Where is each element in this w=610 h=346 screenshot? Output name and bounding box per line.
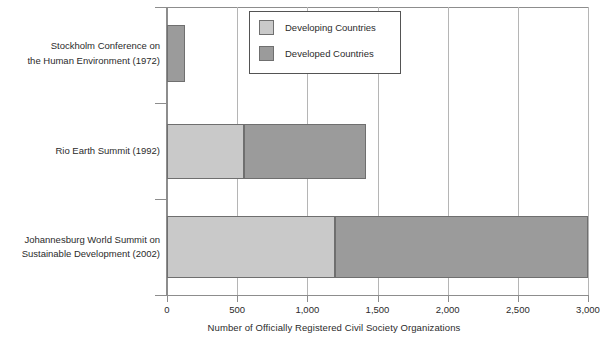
x-axis-line [155,295,589,296]
category-label: Rio Earth Summit (1992) [0,144,160,159]
x-axis-tick-label: 1,500 [366,304,390,315]
category-label: Johannesburg World Summit onSustainable … [0,233,160,262]
x-axis-tick [378,295,379,302]
x-axis-title-text: Number of Officially Registered Civil So… [208,322,461,333]
category-label-line: Sustainable Development (2002) [0,247,160,262]
bar-segment-developed [335,216,588,278]
x-axis-tick [167,295,168,302]
bar-segment-developed [244,124,366,179]
legend-swatch-developing-icon [259,20,274,35]
bar-segment-developing [167,216,335,278]
category-label-line: Stockholm Conference on [0,39,160,54]
bar-row [167,216,588,278]
gridline [588,7,589,295]
x-axis-tick-label: 3,000 [576,304,600,315]
x-axis-tick-label: 2,500 [506,304,530,315]
chart-figure: 05001,0001,5002,0002,5003,000 Number of … [0,0,610,346]
bar-segment-developing [167,124,244,179]
x-axis-tick-label: 1,000 [295,304,319,315]
legend-label-developed: Developed Countries [285,48,374,59]
chart-legend: Developing Countries Developed Countries [249,11,401,74]
category-label: Stockholm Conference onthe Human Environ… [0,39,160,68]
legend-swatch-developed-icon [259,46,274,61]
x-axis-tick [518,295,519,302]
x-axis-tick [307,295,308,302]
x-axis-tick [448,295,449,302]
x-axis-tick-label: 500 [229,304,245,315]
category-labels: Stockholm Conference onthe Human Environ… [0,0,160,346]
legend-item-developing: Developing Countries [259,20,376,35]
x-axis-tick-label: 2,000 [436,304,460,315]
bar-segment-developed [167,25,185,82]
legend-item-developed: Developed Countries [259,46,374,61]
category-label-line: Rio Earth Summit (1992) [0,144,160,159]
category-label-line: Johannesburg World Summit on [0,233,160,248]
bar-row [167,124,588,179]
x-axis-tick [237,295,238,302]
legend-label-developing: Developing Countries [285,22,376,33]
x-axis-tick [588,295,589,302]
category-label-line: the Human Environment (1972) [0,54,160,69]
x-axis-tick-label: 0 [164,304,169,315]
